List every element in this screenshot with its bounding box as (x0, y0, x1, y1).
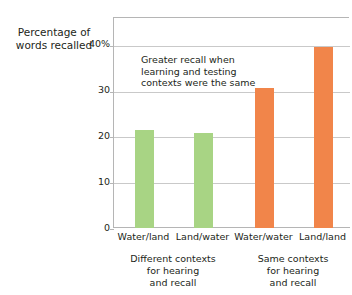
group-label-line-1: Different contexts (130, 253, 215, 265)
group-label-line-2: for hearing (130, 265, 215, 277)
x-axis-category-labels: Water/landLand/waterWater/waterLand/land (113, 231, 349, 247)
group-label-different-contexts: Different contextsfor hearingand recall (130, 253, 215, 289)
chart-annotation-line-3: contexts were the same (141, 77, 255, 89)
y-tickmark-20 (110, 137, 114, 138)
group-label-line-1: Same contexts (258, 253, 329, 265)
bar-water-land (135, 130, 154, 228)
y-tick-label-20: 20 (78, 130, 110, 141)
x-axis-group-labels: Different contextsfor hearingand recallS… (113, 253, 349, 295)
y-tick-label-0: 0 (78, 222, 110, 233)
y-tickmark-40 (110, 46, 114, 47)
chart-annotation-line-1: Greater recall when (141, 54, 255, 66)
group-label-line-3: and recall (130, 277, 215, 289)
x-axis-label-land-land: Land/land (299, 231, 346, 242)
x-axis-label-water-land: Water/land (118, 231, 170, 242)
y-tickmark-30 (110, 92, 114, 93)
bar-water-water (255, 88, 274, 228)
bar-land-water (194, 133, 213, 228)
y-axis-tick-labels: 010203040% (78, 17, 110, 228)
chart-plot-area (113, 17, 349, 228)
group-label-same-contexts: Same contextsfor hearingand recall (258, 253, 329, 289)
chart-annotation-line-2: learning and testing (141, 66, 255, 78)
y-tick-label-30: 30 (78, 84, 110, 95)
chart-annotation: Greater recall when learning and testing… (141, 54, 255, 89)
y-tick-label-10: 10 (78, 176, 110, 187)
chart-plot-inner (114, 18, 349, 228)
x-axis-label-water-water: Water/water (234, 231, 292, 242)
x-axis-label-land-water: Land/water (176, 231, 229, 242)
group-label-line-3: and recall (258, 277, 329, 289)
y-tickmark-0 (110, 229, 114, 230)
y-tick-label-40: 40% (78, 38, 110, 49)
bar-land-land (314, 47, 333, 228)
group-label-line-2: for hearing (258, 265, 329, 277)
y-tickmark-10 (110, 183, 114, 184)
